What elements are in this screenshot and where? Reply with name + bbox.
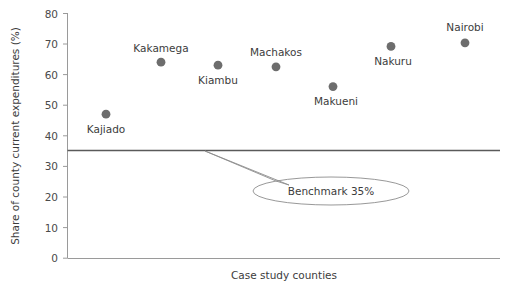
y-tick-label-60: 60 — [45, 69, 58, 81]
y-axis-title: Share of county current expenditures (%) — [9, 27, 21, 245]
y-tick-label-70: 70 — [45, 38, 58, 50]
y-tick-label-30: 30 — [45, 160, 58, 172]
data-point-labels: Kajiado Kakamega Kiambu Machakos Makueni… — [87, 21, 484, 135]
y-tick-label-40: 40 — [45, 130, 58, 142]
data-point-machakos[interactable] — [272, 62, 281, 71]
chart-container: 80 70 60 50 40 30 20 10 0 Share of count… — [0, 0, 514, 290]
data-point-nairobi[interactable] — [461, 38, 470, 47]
data-point-nakuru[interactable] — [387, 42, 396, 51]
y-tick-label-10: 10 — [45, 222, 58, 234]
y-tick-label-0: 0 — [51, 252, 58, 264]
y-axis-ticks — [63, 14, 68, 259]
scatter-chart: 80 70 60 50 40 30 20 10 0 Share of count… — [0, 0, 514, 290]
data-point-kajiado[interactable] — [102, 110, 111, 119]
data-point-kakamega[interactable] — [157, 58, 166, 67]
data-point-kiambu[interactable] — [214, 61, 223, 70]
y-tick-label-20: 20 — [45, 191, 58, 203]
data-label-machakos: Machakos — [250, 46, 302, 58]
data-label-nakuru: Nakuru — [374, 55, 412, 67]
data-label-makueni: Makueni — [314, 95, 358, 107]
data-label-kajiado: Kajiado — [87, 123, 126, 135]
benchmark-callout-label: Benchmark 35% — [288, 185, 375, 197]
y-tick-label-50: 50 — [45, 99, 58, 111]
y-axis-tick-labels: 80 70 60 50 40 30 20 10 0 — [45, 8, 58, 265]
x-axis-title: Case study counties — [231, 269, 337, 281]
data-point-makueni[interactable] — [329, 82, 338, 91]
data-label-kiambu: Kiambu — [198, 74, 238, 86]
data-label-kakamega: Kakamega — [133, 42, 188, 54]
y-tick-label-80: 80 — [45, 8, 58, 20]
data-label-nairobi: Nairobi — [446, 21, 483, 33]
